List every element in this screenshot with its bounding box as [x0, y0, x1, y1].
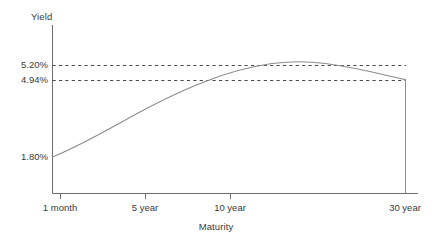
y-axis-title: Yield: [31, 11, 52, 22]
yield-curve-path: [53, 62, 406, 157]
x-tick-label-30-year: 30 year: [389, 202, 421, 213]
x-tick-label-5-year: 5 year: [132, 202, 158, 213]
x-tick-label-1-month: 1 month: [43, 202, 77, 213]
yield-curve-chart: Yield Maturity 5.20% 4.94% 1.80% 1 month…: [0, 0, 432, 244]
y-tick-label-5-20: 5.20%: [6, 59, 48, 70]
y-tick-label-4-94: 4.94%: [6, 74, 48, 85]
y-tick-label-1-80: 1.80%: [6, 151, 48, 162]
x-tick-label-10-year: 10 year: [214, 202, 246, 213]
x-axis-title: Maturity: [0, 221, 432, 232]
